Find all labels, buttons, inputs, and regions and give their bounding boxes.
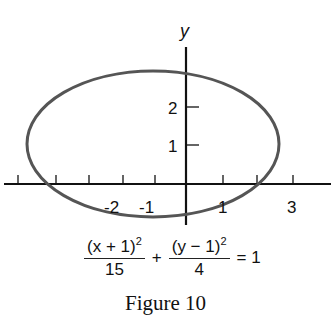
x-term-exponent: 2: [136, 235, 142, 247]
x-term-numerator: (x + 1)2: [84, 237, 145, 259]
y-term-denominator: 4: [194, 259, 203, 280]
y-tick-label-2: 2: [168, 99, 177, 118]
fraction-y-term: (y − 1)2 4: [169, 237, 230, 280]
y-term-exponent: 2: [220, 235, 226, 247]
x-tick-label-3: 3: [287, 198, 296, 217]
plus-sign: +: [152, 248, 162, 268]
x-ticks: [18, 175, 293, 184]
y-tick-label-1: 1: [168, 137, 177, 156]
figure-caption: Figure 10: [0, 291, 331, 315]
y-ticks: [186, 107, 199, 145]
x-tick-label-1: 1: [218, 198, 227, 217]
fraction-x-term: (x + 1)2 15: [84, 237, 145, 280]
ellipse-equation: (x + 1)2 15 + (y − 1)2 4 = 1: [84, 230, 268, 286]
x-term-base: (x + 1): [87, 237, 136, 256]
x-tick-label-neg1: -1: [139, 198, 154, 217]
y-term-base: (y − 1): [172, 237, 221, 256]
equals-one: = 1: [237, 248, 261, 268]
y-term-numerator: (y − 1)2: [169, 237, 230, 259]
ellipse-figure: y 2 1 -2 -1 1 3 (x + 1)2 15 + (y − 1)2 4…: [0, 0, 331, 325]
y-axis-label: y: [178, 21, 190, 41]
x-term-denominator: 15: [105, 259, 124, 280]
ellipse-curve: [27, 71, 279, 217]
x-tick-label-neg2: -2: [104, 198, 119, 217]
